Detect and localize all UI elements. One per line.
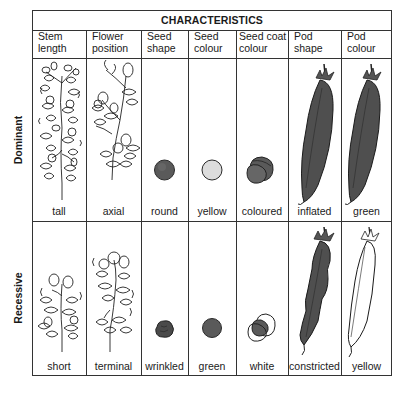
- coloured-seed-coat-icon: [236, 153, 288, 187]
- column-header-pod-colour: Pod colour: [341, 31, 392, 54]
- trait-label-terminal: terminal: [86, 360, 141, 372]
- column-header-line: shape: [147, 43, 188, 55]
- column-header-line: Flower: [92, 31, 141, 43]
- trait-label-white: white: [236, 360, 288, 372]
- trait-label-yellow-pod: yellow: [341, 360, 392, 372]
- round-seed-icon: [141, 158, 188, 182]
- column-header-line: colour: [239, 43, 288, 55]
- green-seed-icon: [188, 316, 236, 340]
- trait-label-wrinkled: wrinkled: [141, 360, 188, 372]
- column-header-line: position: [92, 43, 141, 55]
- column-header-line: Pod: [294, 31, 341, 43]
- yellow-seed-icon: [188, 158, 236, 182]
- row-label-dominant: Dominant: [11, 100, 25, 180]
- trait-label-inflated: inflated: [288, 205, 341, 217]
- trait-label-green-pod: green: [341, 205, 392, 217]
- trait-label-axial: axial: [86, 205, 141, 217]
- column-header-line: Seed: [147, 31, 188, 43]
- white-seed-coat-icon: [236, 308, 288, 344]
- trait-label-tall: tall: [32, 205, 86, 217]
- row-label-recessive: Recessive: [11, 258, 25, 338]
- column-header-seed-shape: Seed shape: [141, 31, 188, 54]
- constricted-pod-icon: [288, 225, 341, 360]
- column-header-pod-shape: Pod shape: [288, 31, 341, 54]
- wrinkled-seed-icon: [141, 318, 188, 340]
- yellow-pod-icon: [341, 225, 392, 360]
- inflated-pod-icon: [288, 60, 341, 210]
- column-header-line: Seed coat: [239, 31, 288, 43]
- column-header-line: colour: [194, 43, 236, 55]
- column-header-seed-coat-colour: Seed coat colour: [236, 31, 288, 54]
- axial-flowering-plant-icon: [86, 58, 141, 203]
- green-pod-icon: [341, 60, 392, 210]
- tall-pea-plant-icon: [32, 58, 86, 203]
- column-header-line: Stem: [38, 31, 86, 43]
- trait-label-constricted: constricted: [288, 360, 341, 372]
- column-header-stem-length: Stem length: [32, 31, 86, 54]
- trait-label-yellow: yellow: [188, 205, 236, 217]
- column-header-line: Seed: [194, 31, 236, 43]
- column-header-line: colour: [347, 43, 392, 55]
- column-header-line: Pod: [347, 31, 392, 43]
- trait-label-round: round: [141, 205, 188, 217]
- terminal-flowering-plant-icon: [86, 250, 141, 355]
- column-header-seed-colour: Seed colour: [188, 31, 236, 54]
- trait-label-green-seed: green: [188, 360, 236, 372]
- column-header-flower-position: Flower position: [86, 31, 141, 54]
- trait-label-coloured: coloured: [236, 205, 288, 217]
- column-header-line: length: [38, 43, 86, 55]
- short-pea-plant-icon: [32, 270, 86, 355]
- table-title: CHARACTERISTICS: [32, 10, 392, 30]
- column-header-line: shape: [294, 43, 341, 55]
- trait-label-short: short: [32, 360, 86, 372]
